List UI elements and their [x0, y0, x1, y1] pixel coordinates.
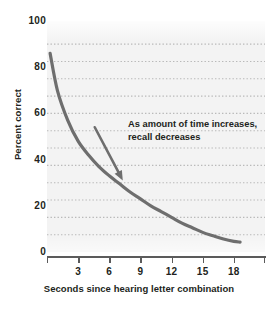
x-axis-tick-label: 15 — [190, 266, 216, 277]
x-axis-end-tick — [264, 256, 265, 263]
arrow-shaft — [95, 127, 120, 173]
x-axis-end-tick — [47, 256, 48, 263]
y-axis-tick-label: 80 — [12, 61, 46, 72]
x-axis-title: Seconds since hearing letter combination — [0, 283, 278, 294]
x-axis-tick-mark — [234, 256, 235, 263]
y-axis-tick-label: 40 — [12, 154, 46, 165]
y-axis-tick-label: 20 — [12, 200, 46, 211]
annotation-line-1: As amount of time increases, — [128, 118, 274, 131]
y-axis-tick-label: 60 — [12, 107, 46, 118]
annotation-line-2: recall decreases — [128, 131, 274, 144]
x-axis-tick-label: 18 — [221, 266, 247, 277]
y-axis-tick-label: 100 — [12, 15, 46, 26]
x-axis-tick-label: 9 — [127, 266, 153, 277]
x-axis-tick-label: 6 — [96, 266, 122, 277]
chart-figure: Percent correct 100806040200 As amount o… — [0, 0, 278, 310]
x-axis-tick-mark — [140, 256, 141, 263]
y-axis-title: Percent correct — [12, 65, 23, 185]
y-axis-tick-label: 0 — [12, 246, 46, 257]
x-axis-tick-mark — [172, 256, 173, 263]
x-axis-tick-label: 3 — [65, 266, 91, 277]
x-axis-tick-mark — [109, 256, 110, 263]
x-axis-tick-mark — [78, 256, 79, 263]
x-axis-tick-label: 12 — [159, 266, 185, 277]
x-axis-tick-mark — [203, 256, 204, 263]
annotation-callout: As amount of time increases, recall decr… — [128, 118, 274, 143]
